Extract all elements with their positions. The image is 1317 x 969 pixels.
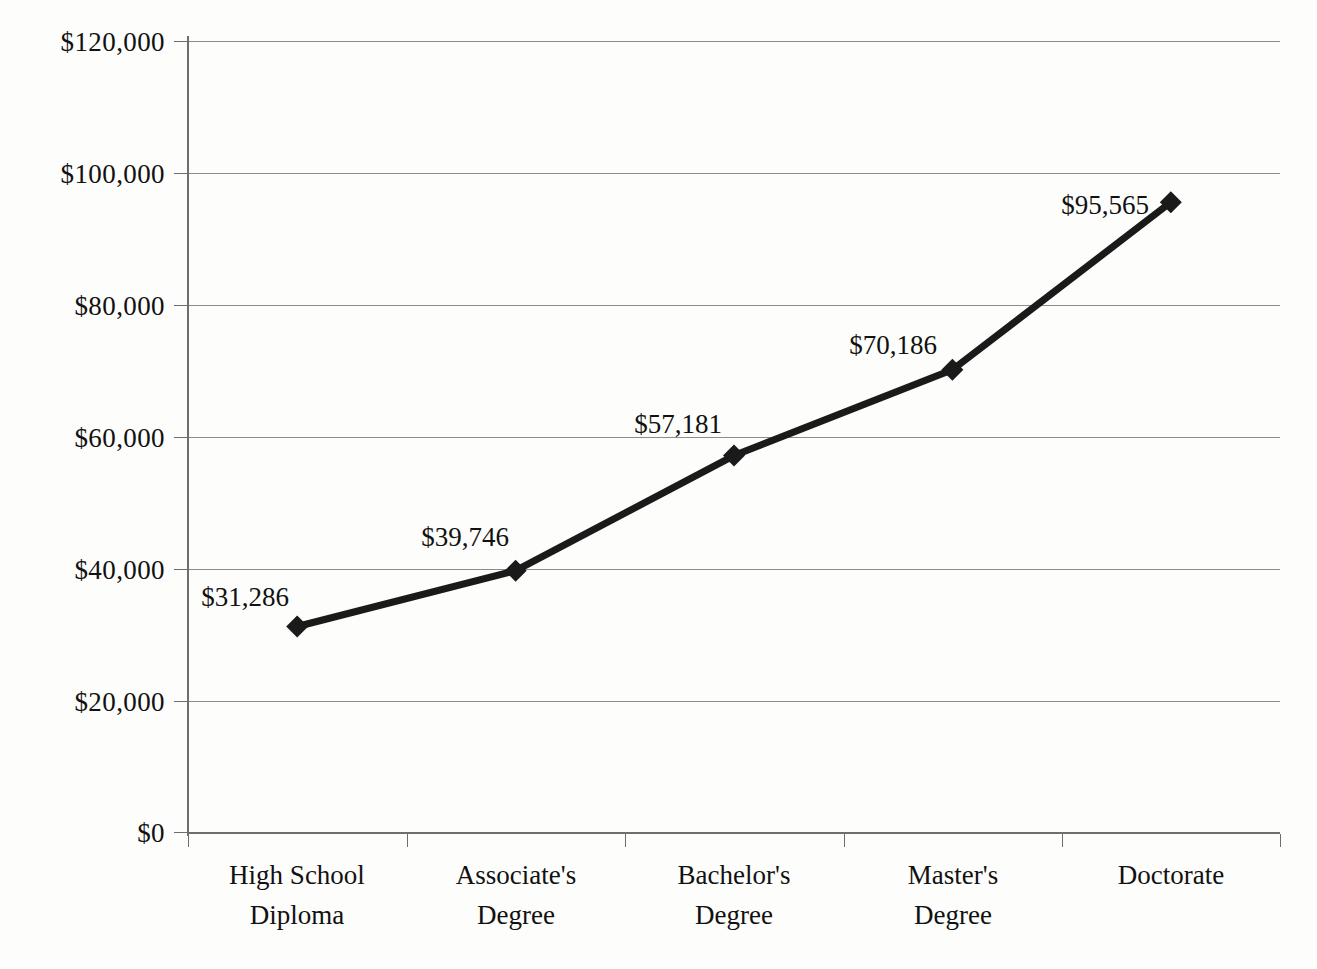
y-tick-40000 <box>174 569 188 570</box>
data-label-high-school-diploma: $31,286 <box>135 582 355 613</box>
gridline-120000 <box>188 41 1280 42</box>
data-point-masters-degree[interactable] <box>940 357 966 383</box>
y-tick-100000 <box>174 173 188 174</box>
data-point-doctorate[interactable] <box>1158 189 1184 215</box>
y-axis-label-100000: $100,000 <box>0 159 165 190</box>
gridline-40000 <box>188 569 1280 570</box>
x-axis-baseline <box>188 832 1280 834</box>
y-tick-120000 <box>174 41 188 42</box>
y-tick-60000 <box>174 437 188 438</box>
x-axis-label-line2: Degree <box>813 895 1093 935</box>
x-tick-1 <box>407 834 408 847</box>
x-tick-3 <box>844 834 845 847</box>
chart-canvas: $120,000 $100,000 $80,000 $60,000 $40,00… <box>0 0 1317 969</box>
gridline-80000 <box>188 305 1280 306</box>
x-axis-label-line1: Doctorate <box>1031 855 1311 895</box>
y-tick-80000 <box>174 305 188 306</box>
y-axis-label-60000: $60,000 <box>0 423 165 454</box>
y-axis-label-120000: $120,000 <box>0 27 165 58</box>
x-tick-4 <box>1062 834 1063 847</box>
gridline-20000 <box>188 701 1280 702</box>
gridline-100000 <box>188 173 1280 174</box>
y-tick-20000 <box>174 701 188 702</box>
data-point-bachelors-degree[interactable] <box>721 443 747 469</box>
data-point-associates-degree[interactable] <box>503 558 529 584</box>
y-tick-0 <box>174 832 188 833</box>
data-point-high-school-diploma[interactable] <box>284 614 310 640</box>
y-axis-label-80000: $80,000 <box>0 291 165 322</box>
data-label-masters-degree: $70,186 <box>783 330 1003 361</box>
data-label-bachelors-degree: $57,181 <box>568 409 788 440</box>
y-axis-line <box>187 36 189 836</box>
x-axis-label-doctorate: Doctorate <box>1031 855 1311 895</box>
data-label-associates-degree: $39,746 <box>355 522 575 553</box>
y-axis-label-0: $0 <box>0 818 165 849</box>
x-tick-2 <box>625 834 626 847</box>
y-axis-label-20000: $20,000 <box>0 687 165 718</box>
x-tick-5 <box>1280 834 1281 847</box>
x-tick-0 <box>188 834 189 847</box>
